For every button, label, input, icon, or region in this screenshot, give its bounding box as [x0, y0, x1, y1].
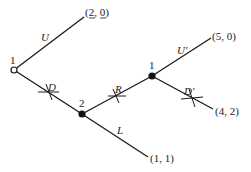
player2-node	[78, 110, 85, 117]
edge-D-prime	[152, 76, 213, 109]
player1-second-label: 1	[149, 59, 155, 71]
action-U-prime-label: U'	[177, 44, 188, 56]
action-L-label: L	[116, 124, 123, 136]
payoff-after-U-prime: (5, 0)	[212, 30, 236, 43]
action-D-prime-label: D'	[183, 85, 195, 97]
action-R-label: R	[114, 83, 122, 95]
root-node	[11, 67, 17, 73]
game-tree: 1 2 1 U D R L U' D' (2, 0) (5, 0) (4, 2)…	[0, 0, 251, 172]
player1-second-node	[148, 72, 155, 79]
root-player-label: 1	[10, 54, 16, 66]
edge-U	[14, 17, 84, 70]
action-D-label: D	[47, 81, 56, 93]
payoff-after-U: (2, 0)	[85, 6, 109, 19]
edge-R	[82, 76, 152, 114]
edge-L	[82, 114, 148, 157]
player2-label: 2	[79, 97, 85, 109]
action-U-label: U	[41, 31, 50, 43]
payoff-after-L: (1, 1)	[150, 152, 174, 165]
payoff-after-D-prime: (4, 2)	[215, 105, 239, 118]
